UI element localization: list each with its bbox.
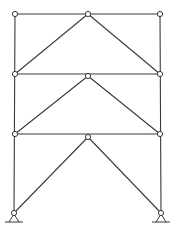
brace-level2-center-to-level1-right [88, 76, 160, 134]
hinge-icon-level2-right [157, 71, 162, 76]
hinge-icon-level1-right [157, 131, 162, 136]
brace-level1-center-to-base-right [88, 137, 161, 213]
hinge-icon-roof-center [85, 11, 90, 16]
hinge-joints [11, 11, 163, 215]
hinge-icon-base-left [11, 210, 16, 215]
brace-roof-center-to-level2-left [15, 14, 88, 74]
hinge-icon-level1-center [85, 134, 90, 139]
hinge-icon-base-right [158, 210, 163, 215]
hinge-icon-level2-center [85, 73, 90, 78]
hinge-icon-level2-left [12, 71, 17, 76]
frame-members [14, 14, 161, 213]
pin-supports [5, 214, 170, 222]
hinge-icon-roof-left [12, 11, 17, 16]
column-roof-right-to-base-right [160, 14, 161, 213]
brace-level1-center-to-base-left [14, 137, 88, 213]
hinge-icon-level1-left [12, 131, 17, 136]
brace-roof-center-to-level2-right [88, 14, 160, 74]
column-roof-left-to-base-left [14, 14, 15, 213]
hinge-icon-roof-right [157, 11, 162, 16]
braced-frame-diagram [0, 0, 175, 236]
brace-level2-center-to-level1-left [15, 76, 88, 134]
